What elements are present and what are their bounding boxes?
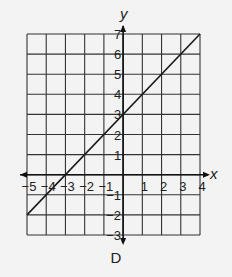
x-tick-label: 4 (198, 179, 205, 194)
x-tick-label: 2 (160, 179, 167, 194)
x-tick-label: 3 (179, 179, 186, 194)
y-tick-label: 3 (114, 107, 121, 122)
y-tick-label: 1 (114, 148, 121, 163)
x-tick-label: −3 (60, 179, 75, 194)
x-tick-label: −5 (22, 179, 37, 194)
y-tick-label: 6 (114, 47, 121, 62)
figure-caption: D (0, 249, 232, 266)
x-tick-label: −2 (79, 179, 94, 194)
y-tick-label: 5 (114, 67, 121, 82)
x-tick-label: −4 (41, 179, 56, 194)
x-tick-label: 1 (141, 179, 148, 194)
y-tick-label: −1 (106, 188, 121, 203)
x-axis-left-arrow-icon (20, 172, 27, 178)
y-tick-label: 2 (114, 128, 121, 143)
y-tick-label: 7 (114, 27, 121, 42)
x-axis-label: x (209, 165, 218, 182)
y-tick-label: −3 (106, 228, 121, 243)
x-axis-right-arrow-icon (203, 172, 210, 178)
y-tick-label: 4 (114, 87, 121, 102)
coordinate-plane: −5−4−3−2−112347654321−1−2−3 x y (0, 0, 232, 277)
y-axis-label: y (119, 5, 129, 22)
y-tick-label: −2 (106, 208, 121, 223)
